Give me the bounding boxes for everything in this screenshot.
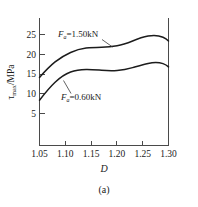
series-label-1-50kn-value: =1.50kN — [67, 29, 99, 39]
y-tick-labels: 25 20 15 10 5 — [27, 30, 37, 119]
x-tick-labels: 1.05 1.10 1.15 1.20 1.25 1.30 — [31, 149, 177, 159]
series-label-1-50kn: Fa=1.50kN — [57, 29, 99, 40]
x-tick-label-1-20: 1.20 — [109, 149, 126, 159]
x-tick-label-1-30: 1.30 — [160, 149, 177, 159]
series-label-0-60kn-value: =0.60kN — [70, 92, 102, 102]
figure-caption: (a) — [98, 184, 109, 196]
series-label-1-50kn-leader-line — [102, 40, 113, 48]
y-axis-title-group: τmax/MPa — [6, 64, 17, 100]
chart-svg: 25 20 15 10 5 1.05 1.10 1.15 1.20 1.25 1… — [0, 0, 198, 207]
y-tick-label-15: 15 — [27, 69, 37, 79]
x-axis-title: D — [99, 163, 108, 174]
y-tick-label-5: 5 — [31, 109, 36, 119]
y-tick-label-25: 25 — [27, 30, 37, 40]
y-tick-label-10: 10 — [27, 89, 37, 99]
data-curves — [40, 36, 169, 101]
annotation-series-1-50kn: Fa=1.50kN — [57, 29, 113, 47]
x-tick-label-1-25: 1.25 — [134, 149, 151, 159]
curve-series-0-60kn — [40, 63, 169, 101]
x-tick-marks — [40, 141, 169, 146]
x-tick-label-1-10: 1.10 — [57, 149, 74, 159]
y-axis-title: τmax/MPa — [6, 64, 17, 100]
y-axis-title-unit: /MPa — [6, 64, 16, 85]
series-label-0-60kn: Fa=0.60kN — [60, 92, 102, 103]
annotation-series-0-60kn: Fa=0.60kN — [60, 81, 102, 104]
x-tick-label-1-05: 1.05 — [31, 149, 48, 159]
y-tick-label-20: 20 — [27, 50, 37, 60]
x-tick-label-1-15: 1.15 — [83, 149, 100, 159]
figure-panel: 25 20 15 10 5 1.05 1.10 1.15 1.20 1.25 1… — [0, 0, 198, 207]
